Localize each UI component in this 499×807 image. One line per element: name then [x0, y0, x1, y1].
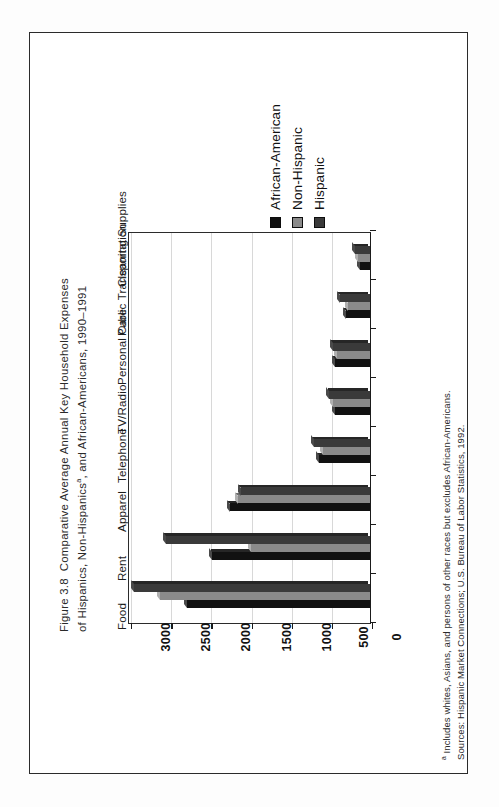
value-axis-labels: 050010001500200025003000: [0, 0, 499, 807]
category-label: TV/Radio: [115, 384, 128, 434]
value-axis-label: 2500: [200, 623, 214, 652]
figure-footnote: a Includes whites, Asians, and persons o…: [440, 270, 469, 760]
value-axis-label: 2000: [240, 623, 254, 652]
category-label: Rent: [115, 555, 128, 580]
footnote-line-1: a Includes whites, Asians, and persons o…: [440, 270, 452, 760]
value-axis-label: 0: [390, 633, 404, 640]
value-axis-label: 1000: [320, 623, 334, 652]
category-label: Cleaning Supplies: [115, 190, 128, 286]
footnote-line-2: Sources: Hispanic Market Connections; U.…: [455, 270, 466, 760]
footnote-text-1: Includes whites, Asians, and persons of …: [441, 390, 452, 756]
category-label: Food: [115, 602, 128, 629]
category-label: Apparel: [115, 490, 128, 531]
value-axis-label: 3000: [159, 623, 173, 652]
footnote-marker: a: [440, 756, 447, 760]
rotated-figure-root: Figure 3.8Comparative Average Annual Key…: [0, 0, 499, 807]
category-label: Telephone: [115, 428, 128, 483]
figure-page: Figure 3.8Comparative Average Annual Key…: [0, 0, 499, 807]
value-axis-label: 500: [357, 626, 371, 648]
value-axis-label: 1500: [280, 623, 294, 652]
